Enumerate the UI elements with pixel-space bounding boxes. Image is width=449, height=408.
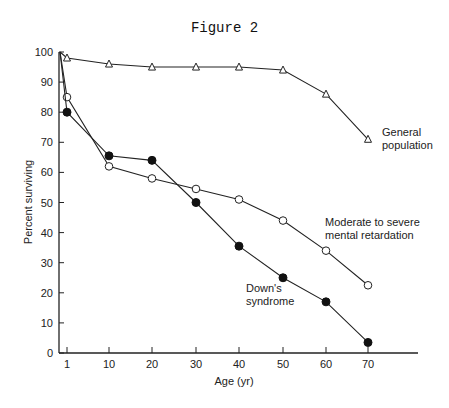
x-tick-label: 40 [233, 358, 245, 370]
y-tick-label: 60 [41, 166, 53, 178]
filled-circle-marker [105, 152, 113, 160]
x-tick-label: 60 [320, 358, 332, 370]
survival-chart: 0102030405060708090100110203040506070Age… [0, 0, 449, 408]
y-tick-label: 40 [41, 227, 53, 239]
x-tick-label: 10 [103, 358, 115, 370]
x-tick-label: 20 [146, 358, 158, 370]
open-circle-marker [192, 185, 200, 193]
filled-circle-marker [364, 338, 372, 346]
open-circle-marker [364, 281, 372, 289]
filled-circle-marker [279, 274, 287, 282]
filled-circle-marker [63, 108, 71, 116]
filled-circle-marker [235, 242, 243, 250]
open-circle-marker [105, 163, 113, 171]
y-tick-label: 30 [41, 257, 53, 269]
y-tick-label: 100 [35, 46, 53, 58]
x-tick-label: 30 [190, 358, 202, 370]
triangle-marker [64, 54, 71, 61]
filled-circle-marker [148, 156, 156, 164]
triangle-marker [323, 90, 330, 97]
open-circle-marker [279, 217, 287, 225]
filled-circle-marker [192, 199, 200, 207]
filled-circle-marker [322, 298, 330, 306]
open-circle-marker [235, 196, 243, 204]
y-tick-label: 0 [47, 347, 53, 359]
y-tick-label: 10 [41, 317, 53, 329]
label-down-2: syndrome [246, 295, 294, 307]
y-tick-label: 70 [41, 136, 53, 148]
label-mr-2: mental retardation [325, 229, 414, 241]
open-circle-marker [63, 93, 71, 101]
x-axis-label: Age (yr) [214, 375, 253, 387]
y-tick-label: 20 [41, 287, 53, 299]
y-axis-label: Percent surviving [22, 160, 34, 244]
y-tick-label: 90 [41, 76, 53, 88]
series-line [60, 52, 368, 342]
label-down-1: Down's [246, 282, 282, 294]
label-general-2: population [382, 139, 433, 151]
open-circle-marker [322, 247, 330, 255]
x-tick-label: 1 [64, 358, 70, 370]
x-tick-label: 70 [362, 358, 374, 370]
label-mr-1: Moderate to severe [325, 216, 420, 228]
x-tick-label: 50 [277, 358, 289, 370]
label-general-1: General [382, 126, 421, 138]
y-tick-label: 80 [41, 106, 53, 118]
y-tick-label: 50 [41, 197, 53, 209]
open-circle-marker [148, 175, 156, 183]
